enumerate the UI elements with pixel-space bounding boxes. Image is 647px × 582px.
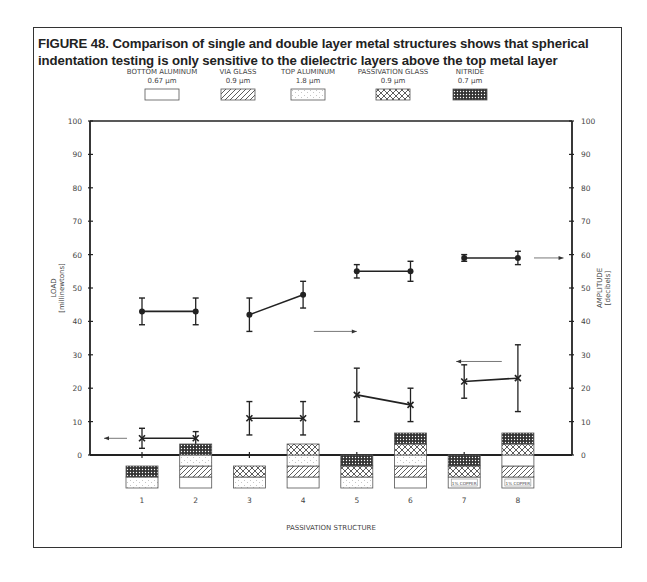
y2-tick-label: 20: [581, 384, 591, 393]
svg-text:[decibels]: [decibels]: [604, 271, 612, 306]
y2-tick-label: 10: [581, 418, 591, 427]
y2-tick-label: 0: [581, 451, 586, 460]
y2-axis-title: AMPLITUDE[decibels]: [596, 268, 612, 308]
x-axis-title: PASSIVATION STRUCTURE: [286, 524, 376, 532]
x-tick-label: 6: [408, 496, 413, 505]
y-tick-label: 30: [72, 351, 82, 360]
structure-4: 4: [287, 444, 319, 505]
data-point: [300, 292, 306, 298]
legend-item-dense: NITRIDE0.7 µm: [453, 68, 487, 100]
structure-1: 1: [126, 466, 158, 505]
data-point: [515, 255, 521, 261]
data-point: [408, 268, 414, 274]
y-tick-label: 70: [72, 217, 82, 226]
structure-2: 2: [180, 444, 212, 505]
y2-tick-label: 70: [581, 217, 591, 226]
x-tick-label: 7: [462, 496, 467, 505]
series-amplitude: [139, 251, 521, 331]
y-tick-label: 40: [72, 317, 82, 326]
structure-3: 3: [233, 466, 265, 505]
data-point: [354, 268, 360, 274]
svg-text:VIA GLASS: VIA GLASS: [219, 68, 257, 76]
y-tick-label: 10: [72, 418, 82, 427]
y-tick-label: 80: [72, 184, 82, 193]
legend-item-crosshatch: PASSIVATION GLASS0.9 µm: [358, 68, 429, 100]
x-tick-label: 1: [140, 496, 145, 505]
data-point: [139, 308, 145, 314]
svg-text:LOAD: LOAD: [50, 278, 58, 297]
chart-series: [139, 251, 521, 448]
chart-annotations: [104, 256, 564, 440]
y2-tick-label: 80: [581, 184, 591, 193]
svg-text:[millinewtons]: [millinewtons]: [58, 263, 66, 313]
series-load: [139, 345, 521, 449]
svg-text:1.8 µm: 1.8 µm: [296, 77, 321, 85]
arrow-left-icon: [104, 436, 127, 440]
y2-tick-label: 100: [581, 117, 596, 126]
svg-text:1% COPPER: 1% COPPER: [452, 481, 477, 486]
y-tick-label: 100: [68, 117, 83, 126]
structure-8: 1% COPPER8: [502, 433, 534, 505]
svg-text:PASSIVATION GLASS: PASSIVATION GLASS: [358, 68, 429, 76]
data-point: [461, 255, 467, 261]
svg-text:0.9 µm: 0.9 µm: [226, 77, 251, 85]
arrow-right-icon: [534, 256, 564, 260]
arrow-left-icon: [456, 359, 502, 363]
data-point: [193, 308, 199, 314]
structure-diagrams: 1234561% COPPER71% COPPER8: [126, 433, 534, 505]
y-tick-label: 50: [72, 284, 82, 293]
svg-text:0.9 µm: 0.9 µm: [381, 77, 406, 85]
y2-tick-label: 60: [581, 251, 591, 260]
y-axis-title: LOAD[millinewtons]: [50, 263, 66, 313]
chart-svg: BOTTOM ALUMINUM0.67 µmVIA GLASS0.9 µmTOP…: [0, 0, 647, 582]
svg-text:TOP ALUMINUM: TOP ALUMINUM: [280, 68, 335, 76]
legend-item-blank: BOTTOM ALUMINUM0.67 µm: [127, 68, 197, 100]
structure-6: 6: [395, 433, 427, 505]
structure-5: 5: [341, 455, 373, 505]
data-point: [246, 312, 252, 318]
svg-text:0.67 µm: 0.67 µm: [147, 77, 176, 85]
y-tick-label: 90: [72, 150, 82, 159]
x-tick-label: 2: [193, 496, 198, 505]
svg-text:NITRIDE: NITRIDE: [456, 68, 484, 76]
y2-tick-label: 30: [581, 351, 591, 360]
arrow-right-icon: [314, 329, 357, 333]
x-tick-label: 8: [516, 496, 521, 505]
svg-text:BOTTOM ALUMINUM: BOTTOM ALUMINUM: [127, 68, 197, 76]
svg-text:0.7 µm: 0.7 µm: [458, 77, 483, 85]
legend-item-diagonal: VIA GLASS0.9 µm: [219, 68, 257, 100]
y2-tick-label: 40: [581, 317, 591, 326]
y-tick-label: 0: [77, 451, 82, 460]
x-tick-label: 5: [354, 496, 359, 505]
y-tick-label: 20: [72, 384, 82, 393]
legend: BOTTOM ALUMINUM0.67 µmVIA GLASS0.9 µmTOP…: [127, 68, 487, 100]
y2-tick-label: 90: [581, 150, 591, 159]
structure-7: 1% COPPER7: [448, 455, 480, 505]
legend-item-dots: TOP ALUMINUM1.8 µm: [280, 68, 335, 100]
svg-text:1% COPPER: 1% COPPER: [505, 481, 530, 486]
x-tick-label: 3: [247, 496, 252, 505]
y2-tick-label: 50: [581, 284, 591, 293]
x-tick-label: 4: [301, 496, 306, 505]
svg-text:AMPLITUDE: AMPLITUDE: [596, 268, 604, 308]
y-tick-label: 60: [72, 251, 82, 260]
